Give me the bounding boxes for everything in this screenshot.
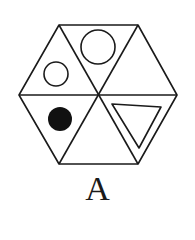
filled-circle-icon [48,107,72,131]
open-triangle-icon [112,104,161,148]
figure-label: A [0,172,195,206]
large-open-circle-icon [81,30,115,64]
small-open-circle-icon [44,62,68,86]
